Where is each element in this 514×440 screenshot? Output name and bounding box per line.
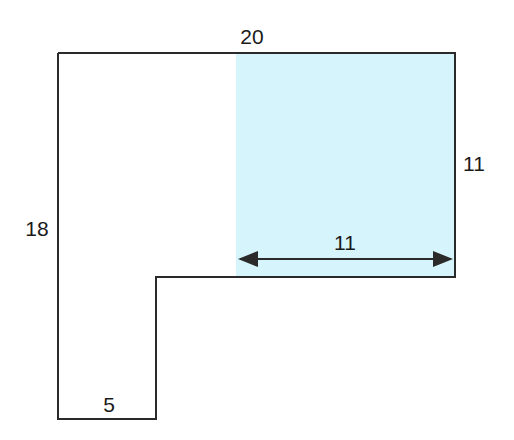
label-left-height: 18 <box>25 217 48 240</box>
label-top-length: 20 <box>240 25 263 48</box>
label-bottom-width: 5 <box>103 393 115 416</box>
label-shaded-width: 11 <box>334 231 356 254</box>
l-shape-diagram: 20 18 11 11 5 <box>0 0 514 440</box>
label-right-height: 11 <box>463 152 485 175</box>
